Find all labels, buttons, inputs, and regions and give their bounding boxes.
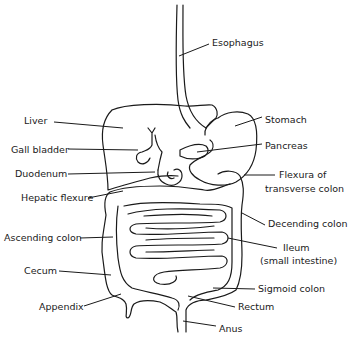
label-ileum-line2: (small intestine)	[260, 255, 337, 266]
label-stomach: Stomach	[265, 114, 307, 125]
label-flexura-line2: transverse colon	[265, 183, 344, 194]
label-hepatic-flexure: Hepatic flexure	[21, 192, 93, 203]
label-descending-colon: Decending colon	[268, 218, 348, 229]
label-gall-bladder: Gall bladder	[11, 144, 69, 155]
label-pancreas: Pancreas	[265, 140, 308, 151]
label-appendix: Appendix	[39, 301, 84, 312]
gall-bladder	[136, 128, 162, 170]
small-intestine	[128, 209, 228, 285]
label-anus: Anus	[219, 323, 243, 334]
duodenum	[158, 169, 182, 185]
label-ileum-line1: Ileum	[283, 242, 310, 253]
label-duodenum: Duodenum	[15, 168, 67, 179]
digestive-system-diagram: Esophagus Liver Stomach Gall bladder Pan…	[0, 0, 348, 340]
label-cecum: Cecum	[24, 265, 57, 276]
esophagus	[176, 5, 206, 128]
pancreas	[180, 145, 208, 159]
label-rectum: Rectum	[238, 301, 274, 312]
liver	[102, 104, 217, 190]
label-esophagus: Esophagus	[212, 37, 264, 48]
leader-lines	[54, 44, 277, 326]
label-liver: Liver	[24, 115, 47, 126]
label-sigmoid-colon: Sigmoid colon	[258, 283, 325, 294]
label-ascending-colon: Ascending colon	[4, 232, 82, 243]
label-flexura-line1: Flexura of	[279, 169, 327, 180]
